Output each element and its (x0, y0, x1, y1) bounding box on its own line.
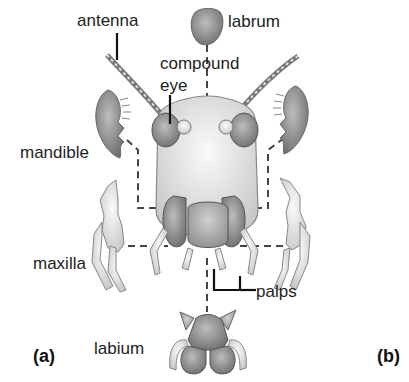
right-compound-eye (230, 113, 258, 147)
right-maxilla (274, 178, 310, 290)
label-compound-eye-line2: eye (160, 77, 187, 94)
label-antenna: antenna (77, 12, 138, 29)
label-labrum: labrum (228, 13, 280, 30)
label-maxilla: maxilla (33, 255, 86, 272)
labrum-shape (191, 8, 223, 44)
right-mandible (280, 86, 308, 154)
left-maxilla (92, 180, 126, 292)
insect-mouthparts-diagram: antenna labrum compound eye mandible max… (0, 0, 409, 382)
panel-label-b: (b) (377, 346, 400, 367)
left-compound-eye (152, 113, 180, 147)
panel-label-a: (a) (33, 346, 55, 367)
label-palps: palps (256, 283, 297, 300)
labium-shape (170, 310, 247, 374)
label-compound-eye-line1: compound (160, 55, 239, 72)
left-mandible (96, 90, 124, 158)
label-labium: labium (94, 340, 144, 357)
label-mandible: mandible (20, 144, 89, 161)
